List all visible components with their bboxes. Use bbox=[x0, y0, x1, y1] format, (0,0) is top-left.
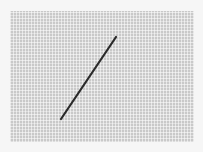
needle bbox=[0, 0, 203, 152]
